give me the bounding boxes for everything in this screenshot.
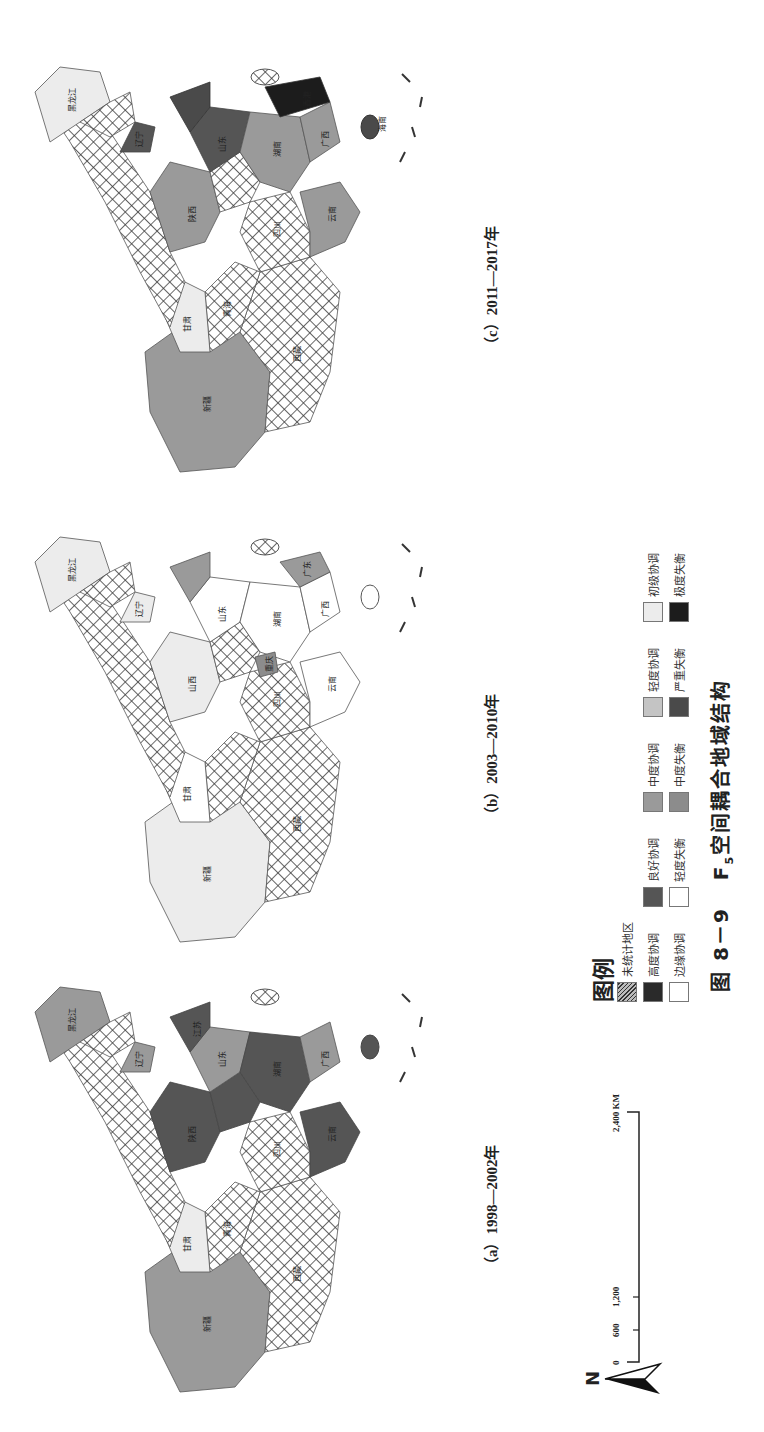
choropleth-map-b: 新疆 西藏 甘肃 四川 云南 黑龙江 辽宁 山西 山东 重庆 湖南 广西 广东	[10, 522, 440, 962]
swatch	[643, 792, 663, 812]
svg-text:广西: 广西	[320, 1051, 330, 1067]
svg-text:甘肃: 甘肃	[182, 786, 192, 802]
svg-text:云南: 云南	[327, 1126, 337, 1142]
svg-text:西藏: 西藏	[292, 816, 302, 832]
svg-text:西藏: 西藏	[292, 1266, 302, 1282]
legend-item-marginal-coordination: 边缘协调	[669, 933, 689, 1002]
svg-text:黑龙江: 黑龙江	[67, 558, 77, 582]
svg-text:山西: 山西	[187, 676, 197, 692]
legend-item-high-coordination: 高度协调	[643, 933, 663, 1002]
legend-item-mild-coordination: 轻度协调	[643, 648, 663, 717]
scale-tick-600: 600	[611, 1324, 621, 1338]
swatch	[643, 982, 663, 1002]
swatch	[669, 982, 689, 1002]
scale-tick-2400: 2,400 KM	[611, 1094, 621, 1132]
scale-tick-0: 0	[611, 1361, 621, 1366]
choropleth-map-a: 新疆 西藏 青海 甘肃 四川 云南 黑龙江 辽宁 陕西 山东 湖南 广西 江苏	[10, 972, 440, 1412]
legend-item-extreme-imbalance: 极度失衡	[669, 553, 689, 622]
map-panel-b: 新疆 西藏 甘肃 四川 云南 黑龙江 辽宁 山西 山东 重庆 湖南 广西 广东 …	[10, 522, 510, 962]
legend-item-moderate-coordination: 中度协调	[643, 743, 663, 812]
svg-text:新疆: 新疆	[202, 866, 212, 882]
panel-caption-c: （c）2011—2017年	[480, 226, 501, 352]
north-label: N	[582, 1371, 603, 1386]
svg-text:四川: 四川	[273, 221, 282, 237]
legend-item-moderate-imbalance: 中度失衡	[669, 743, 689, 812]
svg-text:云南: 云南	[327, 676, 337, 692]
figure-title-prefix: F	[709, 865, 733, 881]
svg-text:辽宁: 辽宁	[134, 131, 144, 147]
swatch	[669, 887, 689, 907]
svg-text:甘肃: 甘肃	[182, 1236, 192, 1252]
svg-text:陕西: 陕西	[187, 1126, 197, 1142]
swatch-hatched	[617, 982, 637, 1002]
svg-text:山东: 山东	[217, 136, 227, 152]
legend-item-good-coordination: 良好协调	[643, 838, 663, 907]
svg-text:湖南: 湖南	[272, 1061, 282, 1077]
svg-text:陕西: 陕西	[187, 206, 197, 222]
legend-item-unrecorded: 未统计地区	[617, 922, 637, 1002]
svg-text:山东: 山东	[217, 1051, 227, 1067]
svg-text:新疆: 新疆	[202, 396, 212, 412]
panel-caption-b: （b）2003—2010年	[480, 694, 501, 822]
svg-text:黑龙江: 黑龙江	[67, 1008, 77, 1032]
svg-text:青海: 青海	[222, 301, 232, 317]
svg-text:广西: 广西	[320, 131, 330, 147]
swatch	[643, 602, 663, 622]
map-panel-c: 新疆 西藏 青海 甘肃 四川 云南 黑龙江 辽宁 陕西 山东 湖南 广西 香港 …	[10, 52, 510, 492]
svg-text:江苏: 江苏	[192, 1021, 202, 1037]
svg-text:山东: 山东	[217, 606, 227, 622]
figure-title-subscript: 5	[723, 855, 736, 865]
swatch	[669, 602, 689, 622]
svg-text:湖南: 湖南	[272, 141, 282, 157]
svg-text:四川: 四川	[273, 691, 282, 707]
figure-caption: 图 8－9 F5空间耦合地域结构	[705, 679, 736, 992]
swatch	[669, 697, 689, 717]
map-panel-a: 新疆 西藏 青海 甘肃 四川 云南 黑龙江 辽宁 陕西 山东 湖南 广西 江苏 …	[10, 972, 510, 1412]
swatch	[643, 697, 663, 717]
svg-text:湖南: 湖南	[272, 611, 282, 627]
choropleth-map-c: 新疆 西藏 青海 甘肃 四川 云南 黑龙江 辽宁 陕西 山东 湖南 广西 香港 …	[10, 52, 440, 492]
svg-text:黑龙江: 黑龙江	[67, 88, 77, 112]
rotated-page: 新疆 西藏 青海 甘肃 四川 云南 黑龙江 辽宁 陕西 山东 湖南 广西 江苏 …	[0, 0, 764, 1432]
legend-item-severe-imbalance: 严重失衡	[669, 648, 689, 717]
svg-text:西藏: 西藏	[292, 346, 302, 362]
figure-title: 空间耦合地域结构	[709, 679, 733, 855]
scale-bar-line	[623, 1072, 663, 1372]
svg-text:辽宁: 辽宁	[134, 1051, 144, 1067]
svg-text:青海: 青海	[222, 1221, 232, 1237]
legend-item-mild-imbalance: 轻度失衡	[669, 838, 689, 907]
legend-item-primary-coordination: 初级协调	[643, 553, 663, 622]
scale-tick-1200: 1,200	[611, 1287, 621, 1307]
figure-number: 图 8－9	[709, 907, 733, 992]
legend-title: 图例	[585, 958, 617, 1002]
panel-caption-a: （a）1998—2002年	[480, 1145, 501, 1273]
svg-text:四川: 四川	[273, 1141, 282, 1157]
svg-text:香港: 香港	[302, 91, 312, 107]
map-legend: 图例 未统计地区 高度协调 良好协调 中度协调 轻度协调 初级协调 边缘协调	[585, 462, 695, 1002]
svg-text:甘肃: 甘肃	[182, 316, 192, 332]
svg-text:重庆: 重庆	[264, 656, 274, 672]
svg-text:海南: 海南	[377, 116, 387, 132]
svg-text:新疆: 新疆	[202, 1316, 212, 1332]
swatch	[643, 887, 663, 907]
svg-text:广西: 广西	[320, 601, 330, 617]
swatch	[669, 792, 689, 812]
svg-text:辽宁: 辽宁	[134, 601, 144, 617]
svg-text:广东: 广东	[302, 561, 312, 577]
svg-text:云南: 云南	[327, 206, 337, 222]
scale-bar: 0 600 1,200 2,400 KM	[605, 1072, 665, 1372]
